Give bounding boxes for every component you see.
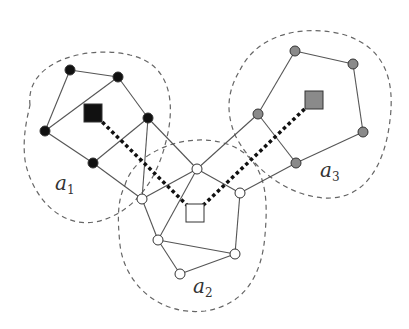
inter-cluster-edge	[148, 118, 197, 169]
edge	[70, 70, 118, 77]
edge	[45, 131, 93, 163]
cluster-label-a1: a1	[55, 171, 75, 197]
node-a2-4	[230, 249, 240, 259]
hub-square-a3	[305, 91, 323, 109]
edge	[295, 51, 353, 64]
node-a3-1	[348, 59, 358, 69]
node-a1-1	[113, 72, 123, 82]
inter-cluster-edge	[197, 114, 258, 169]
edge	[180, 254, 235, 274]
inter-cluster-edge	[93, 163, 142, 199]
cluster-labels: a1a2a3	[55, 158, 340, 300]
edge	[142, 199, 158, 240]
edge	[158, 240, 235, 254]
cluster-graph-diagram: a1a2a3	[0, 0, 409, 329]
edge	[353, 64, 363, 132]
edge	[258, 51, 295, 114]
node-a1-4	[88, 158, 98, 168]
node-a2-0	[192, 164, 202, 174]
hub-square-a1	[84, 104, 102, 122]
node-a3-2	[253, 109, 263, 119]
hub-links	[93, 100, 314, 213]
node-a2-1	[137, 194, 147, 204]
node-a1-2	[143, 113, 153, 123]
edge	[118, 77, 148, 118]
node-a3-3	[358, 127, 368, 137]
cluster-label-a3: a3	[320, 158, 340, 184]
hub-square-a2	[186, 204, 204, 222]
edge	[93, 118, 148, 163]
node-a3-4	[291, 158, 301, 168]
cluster-outline-a1	[24, 52, 170, 223]
node-a1-0	[65, 65, 75, 75]
edge	[158, 240, 180, 274]
node-a1-3	[40, 126, 50, 136]
edge	[258, 114, 296, 163]
inter-cluster-edge	[240, 163, 296, 193]
node-a2-2	[235, 188, 245, 198]
node-a2-5	[175, 269, 185, 279]
node-a2-3	[153, 235, 163, 245]
cluster-label-a2: a2	[193, 274, 213, 300]
node-a3-0	[290, 46, 300, 56]
edge	[235, 193, 240, 254]
inter-cluster-edge	[142, 118, 148, 199]
